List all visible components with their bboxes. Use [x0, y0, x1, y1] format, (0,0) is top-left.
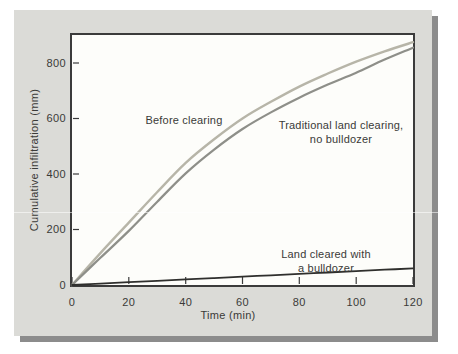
y-tick-label: 600	[46, 113, 66, 124]
annotation-line: Land cleared with	[281, 248, 371, 262]
x-axis-title: Time (min)	[200, 309, 255, 321]
annotation-line: no bulldozer	[279, 132, 404, 146]
annotation-before-clearing: Before clearing	[146, 114, 223, 128]
annotation-line: a bulldozer	[281, 261, 371, 275]
x-tick-label: 80	[293, 297, 306, 308]
x-tick-label: 120	[403, 297, 423, 308]
y-axis-title: Cumulative infiltration (mm)	[28, 89, 40, 231]
y-tick-label: 200	[46, 224, 66, 235]
infiltration-chart-figure: 0204060801001200200400600800 Cumulative …	[0, 0, 458, 354]
y-tick-label: 400	[46, 168, 66, 179]
x-tick-label: 60	[236, 297, 249, 308]
y-tick-label: 800	[46, 57, 66, 68]
x-tick-label: 40	[179, 297, 192, 308]
x-tick-label: 20	[122, 297, 135, 308]
annotation-bulldozer-clearing: Land cleared with a bulldozer	[281, 248, 371, 275]
annotation-traditional-clearing: Traditional land clearing, no bulldozer	[279, 119, 404, 146]
x-tick-label: 100	[346, 297, 366, 308]
x-tick-label: 0	[69, 297, 76, 308]
annotation-line: Traditional land clearing,	[279, 119, 404, 133]
annotation-line: Before clearing	[146, 114, 223, 128]
y-tick-label: 0	[59, 280, 66, 291]
